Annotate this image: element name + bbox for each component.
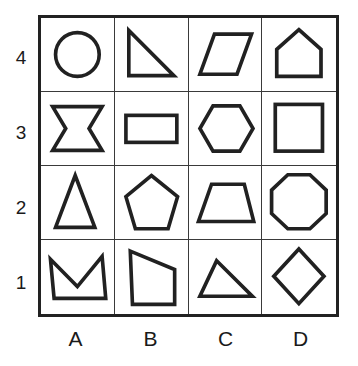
- cell-D2[interactable]: [262, 166, 336, 240]
- shape-crown-concave-quadrilateral: [41, 240, 114, 314]
- shape-trapezoid: [189, 166, 262, 239]
- shape-grid-puzzle: 4 3 2 1: [0, 0, 358, 366]
- cell-D4[interactable]: [262, 18, 336, 92]
- shape-circle: [41, 18, 114, 91]
- cell-A3[interactable]: [41, 92, 115, 166]
- shape-scalene-triangle: [189, 240, 262, 314]
- shape-concave-hexagon-banner: [41, 92, 114, 165]
- cell-A2[interactable]: [41, 166, 115, 240]
- shape-tall-triangle: [41, 166, 114, 239]
- shape-hexagon: [189, 92, 262, 165]
- cell-C4[interactable]: [189, 18, 263, 92]
- column-label-a: A: [38, 328, 113, 349]
- cell-D1[interactable]: [262, 240, 336, 314]
- cell-C1[interactable]: [189, 240, 263, 314]
- cell-C2[interactable]: [189, 166, 263, 240]
- column-label-d: D: [263, 328, 338, 349]
- cell-A4[interactable]: [41, 18, 115, 92]
- cell-D3[interactable]: [262, 92, 336, 166]
- cell-B4[interactable]: [115, 18, 189, 92]
- column-label-c: C: [188, 328, 263, 349]
- cell-C3[interactable]: [189, 92, 263, 166]
- shape-irregular-quadrilateral: [115, 240, 188, 314]
- cell-B1[interactable]: [115, 240, 189, 314]
- shape-pentagon: [115, 166, 188, 239]
- shape-right-triangle: [115, 18, 188, 91]
- cell-B3[interactable]: [115, 92, 189, 166]
- shape-grid: [38, 15, 339, 317]
- row-label-1: 1: [8, 273, 34, 292]
- shape-parallelogram: [189, 18, 262, 91]
- column-label-b: B: [113, 328, 188, 349]
- row-label-2: 2: [8, 198, 34, 217]
- shape-diamond: [262, 240, 336, 314]
- shape-square: [262, 92, 336, 165]
- shape-octagon: [262, 166, 336, 239]
- cell-A1[interactable]: [41, 240, 115, 314]
- shape-rectangle: [115, 92, 188, 165]
- row-label-4: 4: [8, 48, 34, 67]
- cell-B2[interactable]: [115, 166, 189, 240]
- shape-house-pentagon: [262, 18, 336, 91]
- row-label-3: 3: [8, 123, 34, 142]
